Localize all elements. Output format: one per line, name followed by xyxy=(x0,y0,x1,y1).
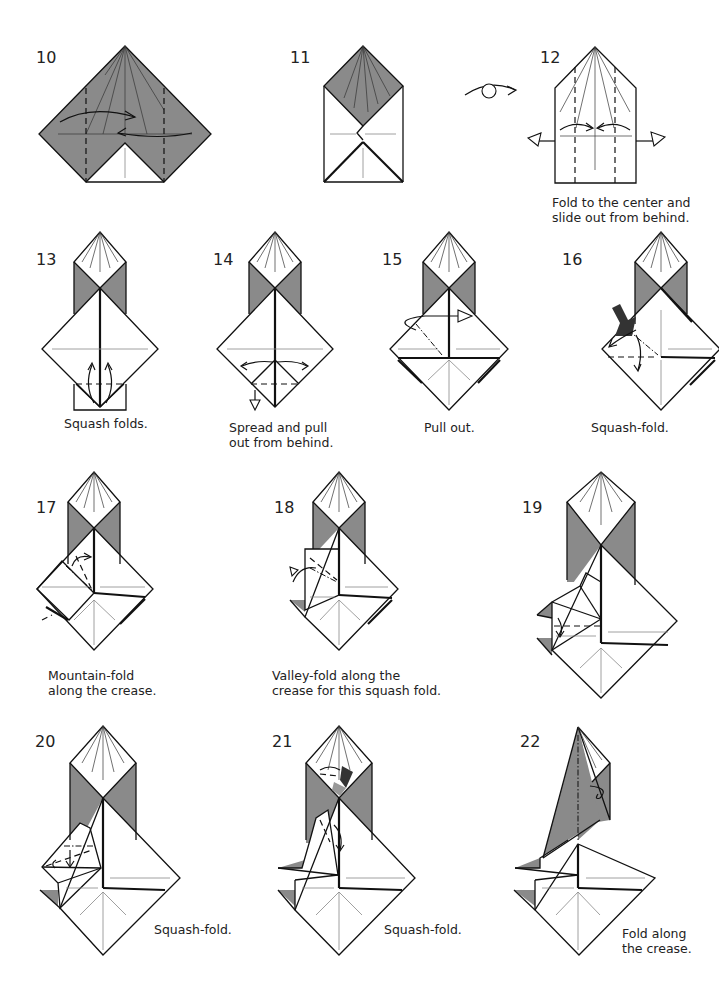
step-12: 12 Fold to the center and slide out from… xyxy=(520,0,719,230)
step-14-diagram xyxy=(175,220,355,450)
step-22-caption: Fold along the crease. xyxy=(622,926,692,956)
step-11: 11 xyxy=(250,0,430,210)
step-20-caption: Squash-fold. xyxy=(154,922,232,937)
step-10: 10 xyxy=(0,0,230,210)
step-15-caption: Pull out. xyxy=(424,420,475,435)
step-20-diagram xyxy=(0,700,250,985)
step-21-diagram xyxy=(250,700,500,985)
step-18-diagram xyxy=(260,460,460,700)
step-10-diagram xyxy=(0,0,230,210)
step-13-caption: Squash folds. xyxy=(64,416,148,431)
step-15: 15 Pull out. xyxy=(360,220,540,450)
step-18-caption: Valley-fold along the crease for this sq… xyxy=(272,668,441,698)
step-19: 19 xyxy=(500,460,719,700)
step-15-diagram xyxy=(360,220,540,450)
step-17-caption: Mountain-fold along the crease. xyxy=(48,668,156,698)
step-20: 20 Squash-fold. xyxy=(0,700,250,985)
step-21: 21 Squash-fold. xyxy=(250,700,500,985)
step-17-diagram xyxy=(0,460,200,700)
step-21-caption: Squash-fold. xyxy=(384,922,462,937)
step-18: 18 Valley-fold along the crease for this… xyxy=(260,460,460,700)
step-11-diagram xyxy=(250,0,430,210)
step-14-caption: Spread and pull out from behind. xyxy=(229,420,333,450)
step-16-caption: Squash-fold. xyxy=(591,420,669,435)
step-14: 14 Spread and pull out from behind. xyxy=(175,220,355,450)
step-22: 22 Fold along the crease. xyxy=(490,700,719,985)
step-17: 17 Mountain-fold along the crease. xyxy=(0,460,200,700)
step-16: 16 Squash-fold. xyxy=(540,220,719,450)
step-16-diagram xyxy=(540,220,719,450)
step-13: 13 Squash folds. xyxy=(0,220,180,450)
step-19-diagram xyxy=(500,460,719,700)
